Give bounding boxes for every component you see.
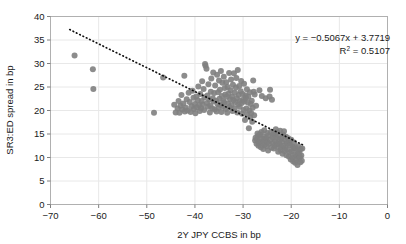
y-tick-label: 30 — [34, 58, 45, 69]
y-axis-ticks: 0510152025303540 — [34, 11, 51, 210]
y-tick-label: 35 — [34, 34, 45, 45]
scatter-point — [90, 66, 96, 72]
y-tick-label: 25 — [34, 81, 45, 92]
scatter-point — [181, 73, 187, 79]
scatter-point — [253, 103, 259, 109]
x-tick-label: −70 — [42, 210, 58, 221]
x-axis-ticks: −70−60−50−40−30−20−100 — [42, 205, 390, 221]
x-tick-label: −20 — [283, 210, 299, 221]
plot-svg: 0510152025303540 −70−60−50−40−30−20−100 … — [0, 0, 406, 244]
x-axis-title: 2Y JPY CCBS in bp — [177, 229, 261, 240]
scatter-point — [235, 67, 241, 73]
scatter-point — [249, 98, 255, 104]
x-tick-label: −60 — [91, 210, 107, 221]
x-tick-label: −10 — [331, 210, 347, 221]
scatter-point — [201, 86, 207, 92]
scatter-point — [299, 146, 305, 152]
scatter-point — [195, 84, 201, 90]
scatter-point — [199, 78, 205, 84]
scatter-point — [256, 87, 262, 93]
scatter-point — [298, 153, 304, 159]
y-tick-label: 15 — [34, 128, 45, 139]
y-tick-label: 40 — [34, 11, 45, 22]
x-tick-label: −30 — [235, 210, 251, 221]
y-tick-label: 10 — [34, 152, 45, 163]
scatter-point — [252, 92, 258, 98]
scatter-point — [203, 66, 209, 72]
scatter-point — [281, 128, 287, 134]
scatter-point — [267, 87, 273, 93]
scatter-point — [269, 97, 275, 103]
scatter-point — [90, 86, 96, 92]
scatter-point — [250, 77, 256, 83]
scatter-point — [205, 81, 211, 87]
scatter-point — [299, 158, 305, 164]
scatter-point — [151, 110, 157, 116]
x-tick-label: −50 — [139, 210, 155, 221]
scatter-point — [228, 76, 234, 82]
y-tick-label: 20 — [34, 105, 45, 116]
y-tick-label: 5 — [39, 175, 44, 186]
scatter-point — [246, 125, 252, 131]
scatter-point — [242, 117, 248, 123]
r-squared-label: R2 = 0.5107 — [340, 45, 390, 57]
y-axis-title: SR3:ED spread in bp — [4, 65, 15, 154]
scatter-point — [221, 74, 227, 80]
scatter-point — [218, 68, 224, 74]
scatter-chart-figure: 0510152025303540 −70−60−50−40−30−20−100 … — [0, 0, 406, 244]
scatter-point — [224, 110, 230, 116]
scatter-point — [72, 53, 78, 59]
scatter-point — [251, 112, 257, 118]
regression-equation: y = −0.5067x + 3.7719 — [295, 32, 390, 43]
x-tick-label: 0 — [385, 210, 390, 221]
scatter-point — [212, 83, 218, 89]
y-tick-label: 0 — [39, 199, 44, 210]
x-tick-label: −40 — [187, 210, 203, 221]
scatter-point — [178, 92, 184, 98]
scatter-point — [241, 81, 247, 87]
scatter-point — [208, 76, 214, 82]
